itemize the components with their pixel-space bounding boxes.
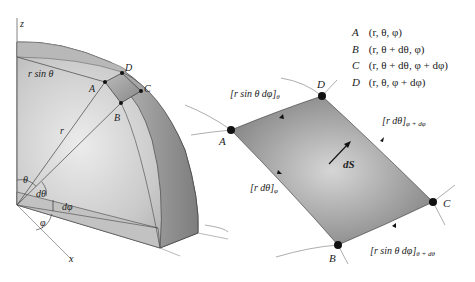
- sphere-octant: [17, 18, 228, 260]
- legend-coords: (r, θ, φ): [369, 26, 402, 38]
- right-point-B-label: B: [329, 252, 336, 264]
- legend-row-C: C (r, θ + dθ, φ + dφ): [352, 57, 448, 74]
- point-D-dot-large: [318, 92, 326, 100]
- arrow-right-edge: [380, 137, 384, 142]
- edge-label-top: [r sin θ dφ]θ: [230, 88, 280, 101]
- edge-label-bottom: [r sin θ dφ]θ + dθ: [370, 245, 435, 258]
- extension-line: [198, 233, 228, 239]
- point-D-dot: [120, 71, 124, 75]
- x-axis-label: x: [68, 253, 74, 264]
- legend-point: B: [352, 41, 366, 58]
- z-axis-label: z: [19, 18, 24, 29]
- arrow-bottom-edge: [392, 223, 396, 228]
- dphi-label: dφ: [62, 201, 73, 212]
- legend-point: D: [352, 74, 366, 91]
- edge-label-right: [r dθ]φ + dφ: [382, 115, 426, 128]
- point-B-dot-large: [334, 241, 342, 249]
- legend-point: C: [352, 57, 366, 74]
- right-point-D-label: D: [316, 78, 325, 90]
- left-point-A-label: A: [88, 83, 96, 94]
- right-point-A-label: A: [218, 135, 226, 147]
- coordinate-legend: A (r, θ, φ) B (r, θ + dθ, φ) C (r, θ + d…: [352, 24, 448, 90]
- legend-coords: (r, θ, φ + dφ): [369, 76, 426, 88]
- surface-element-patch: [185, 78, 455, 264]
- legend-coords: (r, θ + dθ, φ + dφ): [369, 59, 448, 71]
- dS-label: dS: [343, 158, 355, 170]
- spherical-surface-element-figure: z x r sin θ r θ dθ dφ φ A D C B: [0, 0, 475, 282]
- point-C-dot-large: [429, 198, 437, 206]
- point-C-dot: [139, 89, 143, 93]
- right-point-C-label: C: [443, 197, 451, 209]
- dtheta-label: dθ: [36, 188, 46, 199]
- legend-row-B: B (r, θ + dθ, φ): [352, 41, 448, 58]
- left-point-B-label: B: [114, 112, 120, 123]
- point-A-dot: [103, 80, 107, 84]
- r-sin-theta-label: r sin θ: [28, 68, 54, 79]
- legend-row-A: A (r, θ, φ): [352, 24, 448, 41]
- point-A-dot-large: [227, 126, 235, 134]
- legend-coords: (r, θ + dθ, φ): [369, 43, 425, 55]
- legend-point: A: [352, 24, 366, 41]
- guide-arc-left-bottom: [205, 225, 228, 232]
- guide-arc-D-top: [281, 78, 322, 96]
- left-point-D-label: D: [124, 62, 133, 73]
- theta-label: θ: [23, 174, 28, 185]
- extension-line-2: [160, 248, 180, 256]
- legend-row-D: D (r, θ, φ + dφ): [352, 74, 448, 91]
- phi-label: φ: [40, 217, 46, 228]
- point-B-dot: [119, 101, 123, 105]
- guide-arc-A-top: [185, 105, 231, 130]
- r-label: r: [60, 125, 64, 136]
- left-point-C-label: C: [144, 83, 151, 94]
- edge-label-left: [r dθ]φ: [250, 182, 278, 195]
